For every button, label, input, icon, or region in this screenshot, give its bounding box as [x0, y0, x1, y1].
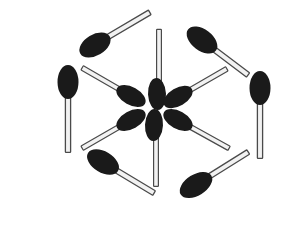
matchstick-figure: 5 -	[0, 0, 284, 228]
matchstick-diagram	[0, 0, 284, 228]
match-head	[250, 71, 271, 105]
match-head	[58, 65, 79, 99]
